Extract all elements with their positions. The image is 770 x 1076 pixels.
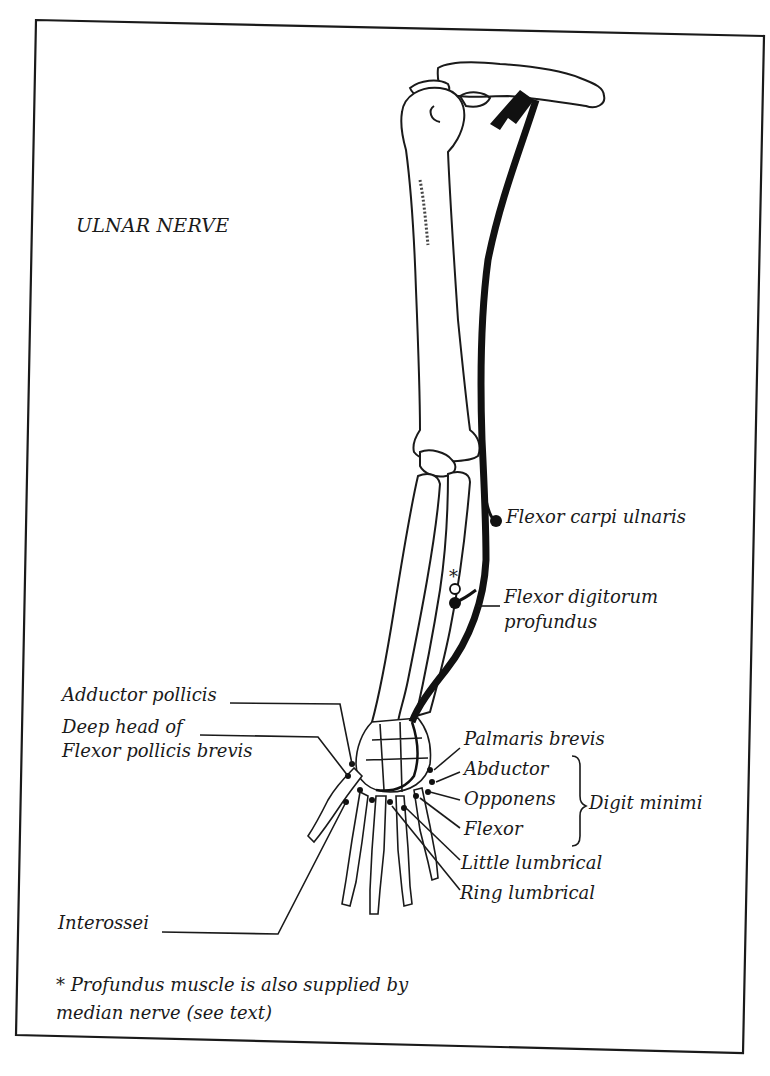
carpal-bones [356,718,431,792]
label-abductor: Abductor [464,758,548,780]
label-opponens: Opponens [464,788,556,810]
label-fdp-line2: profundus [504,611,597,633]
footnote-line1: * Profundus muscle is also supplied by [56,970,408,1000]
digit-minimi-brace [572,756,586,846]
humerus [401,88,479,462]
label-palmaris-brevis: Palmaris brevis [464,728,605,750]
label-flexor: Flexor [464,818,523,840]
figure-frame [16,20,764,1053]
footnote-line2: median nerve (see text) [56,998,272,1028]
label-interossei: Interossei [58,912,149,934]
label-fdp-line1: Flexor digitorum [504,586,658,608]
label-little-lumbrical: Little lumbrical [461,852,602,874]
leader-lines [162,606,500,934]
asterisk-marker: * [449,566,458,588]
label-digit-minimi: Digit minimi [589,792,702,814]
label-ring-lumbrical: Ring lumbrical [460,882,595,904]
label-fpb-line1: Deep head of [62,716,183,738]
hand-bones [308,768,438,914]
ulnar-nerve-figure: ULNAR NERVE Flexor carpi ulnaris Flexor … [0,0,770,1076]
label-adductor-pollicis: Adductor pollicis [62,684,217,706]
label-flexor-carpi-ulnaris: Flexor carpi ulnaris [506,506,686,528]
figure-title: ULNAR NERVE [76,214,229,236]
label-fpb-line2: Flexor pollicis brevis [62,740,253,762]
